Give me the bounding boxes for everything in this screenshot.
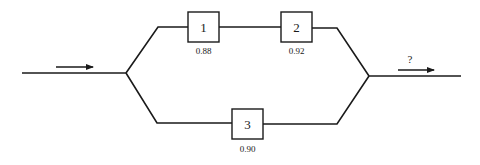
reliability-diagram: ? 1 0.88 2 0.92 3 0.90 bbox=[0, 0, 480, 165]
component-3-label: 3 bbox=[244, 117, 251, 132]
output-label: ? bbox=[408, 53, 413, 65]
component-1-reliability: 0.88 bbox=[196, 46, 212, 56]
lower-branch-right bbox=[263, 76, 369, 124]
component-2: 2 0.92 bbox=[281, 12, 312, 56]
component-2-reliability: 0.92 bbox=[289, 46, 305, 56]
component-3: 3 0.90 bbox=[232, 109, 263, 154]
upper-branch-right bbox=[312, 28, 369, 76]
lower-branch-left bbox=[126, 73, 232, 123]
component-1: 1 0.88 bbox=[188, 12, 219, 56]
component-3-reliability: 0.90 bbox=[240, 144, 256, 154]
component-2-label: 2 bbox=[293, 20, 300, 35]
component-1-label: 1 bbox=[200, 20, 207, 35]
upper-branch-left bbox=[126, 27, 188, 73]
